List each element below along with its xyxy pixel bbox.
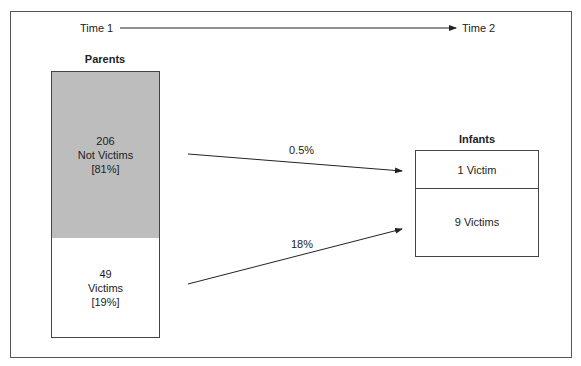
time2-label: Time 2 xyxy=(462,22,495,34)
not-victims-percent: [81%] xyxy=(91,162,119,176)
infants-box: 1 Victim 9 Victims xyxy=(415,150,539,257)
arrow-label-bottom: 18% xyxy=(291,238,313,250)
arrow-not-victims-to-victim xyxy=(188,154,402,171)
parents-title: Parents xyxy=(51,53,159,65)
parents-box: 206 Not Victims [81%] 49 Victims [19%] xyxy=(51,71,160,338)
victims-count: 49 xyxy=(99,267,111,281)
victims-label: Victims xyxy=(88,281,123,295)
infants-top-label: 1 Victim xyxy=(458,163,497,177)
time1-label: Time 1 xyxy=(80,22,113,34)
infants-top-cell: 1 Victim xyxy=(416,151,538,189)
not-victims-count: 206 xyxy=(96,134,114,148)
infants-title: Infants xyxy=(415,133,539,145)
parents-victims-cell: 49 Victims [19%] xyxy=(52,238,159,337)
infants-bottom-cell: 9 Victims xyxy=(416,188,538,256)
not-victims-label: Not Victims xyxy=(78,148,133,162)
arrow-label-top: 0.5% xyxy=(289,144,314,156)
infants-bottom-label: 9 Victims xyxy=(455,215,499,229)
victims-percent: [19%] xyxy=(91,295,119,309)
parents-not-victims-cell: 206 Not Victims [81%] xyxy=(52,72,159,239)
